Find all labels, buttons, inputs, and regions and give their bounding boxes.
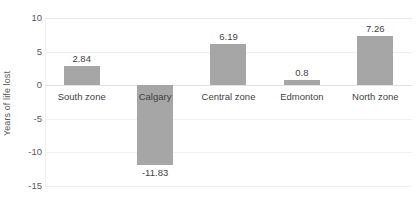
- bar[interactable]: [284, 80, 320, 85]
- bar[interactable]: [357, 36, 393, 85]
- category-label: Central zone: [202, 92, 256, 102]
- category-label: South zone: [58, 92, 106, 102]
- category-label: North zone: [352, 92, 398, 102]
- bar-group: 0.8Edmonton: [265, 18, 338, 186]
- bar[interactable]: [64, 66, 100, 85]
- bar-value-label: 0.8: [295, 68, 308, 78]
- category-label: Edmonton: [280, 92, 323, 102]
- y-tick-label: -10: [14, 148, 42, 158]
- bar[interactable]: [210, 44, 246, 86]
- bar-value-label: -11.83: [142, 168, 168, 178]
- y-axis-tick-labels: 1050-5-10-15: [12, 0, 42, 207]
- y-tick-label: 10: [14, 13, 42, 23]
- bar-value-label: 6.19: [219, 32, 238, 42]
- y-tick-label: 5: [14, 47, 42, 57]
- bar-chart: Years of life lost 1050-5-10-15 2.84Sout…: [0, 0, 416, 207]
- bar-value-label: 7.26: [366, 24, 385, 34]
- category-label: Calgary: [139, 92, 172, 102]
- gridline-neg15: [45, 186, 412, 187]
- bar-group: 2.84South zone: [45, 18, 118, 186]
- y-tick-label: 0: [14, 80, 42, 90]
- bar-group: -11.83Calgary: [118, 18, 191, 186]
- bar-value-label: 2.84: [72, 54, 91, 64]
- y-tick-label: -15: [14, 181, 42, 191]
- y-tick-label: -5: [14, 114, 42, 124]
- plot-area: 2.84South zone-11.83Calgary6.19Central z…: [45, 18, 412, 186]
- bar-group: 6.19Central zone: [192, 18, 265, 186]
- bar-group: 7.26North zone: [339, 18, 412, 186]
